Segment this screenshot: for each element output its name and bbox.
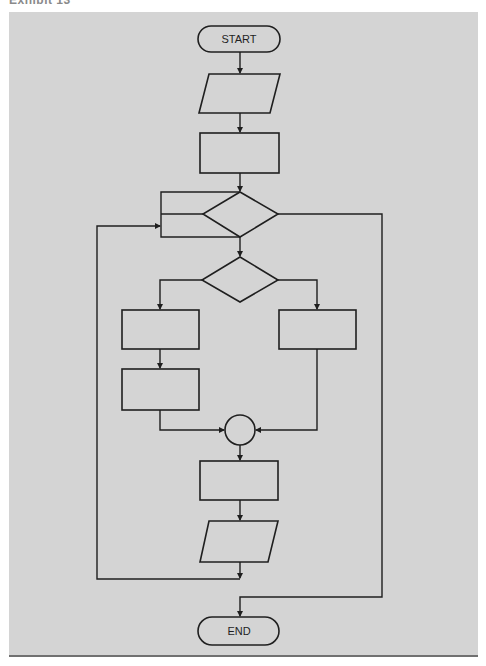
process-box-1 — [200, 133, 279, 173]
arrow-right-to-connector — [256, 349, 317, 430]
branch-decision-diamond — [202, 257, 278, 302]
process-box-final — [200, 461, 278, 500]
end-label: END — [227, 625, 250, 637]
end-terminal: END — [198, 617, 279, 645]
loop-back-path — [97, 226, 240, 579]
start-terminal: START — [198, 26, 280, 52]
process-box-left-1 — [122, 310, 199, 349]
branch-right-arrow — [278, 280, 317, 309]
process-box-left-2 — [122, 369, 199, 410]
arrow-left-to-connector — [160, 410, 224, 430]
exit-path-to-end — [240, 214, 382, 616]
branch-left-arrow — [160, 280, 202, 309]
output-parallelogram — [200, 521, 278, 562]
loop-decision-diamond — [203, 192, 278, 237]
flowchart: START END — [0, 0, 486, 666]
process-box-right — [279, 310, 356, 349]
start-label: START — [221, 33, 256, 45]
connector-circle — [225, 415, 255, 445]
input-parallelogram — [199, 74, 280, 113]
